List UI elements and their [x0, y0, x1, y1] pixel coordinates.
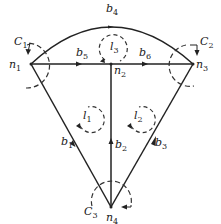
label-b4: b4: [106, 2, 118, 17]
branch-b2: [109, 64, 114, 207]
cutset-c3-arrow: [121, 205, 131, 210]
label-n3: n3: [196, 58, 208, 73]
label-b6: b6: [139, 46, 151, 61]
branch-b1: [31, 64, 111, 207]
label-n1: n1: [9, 58, 21, 73]
label-l2: l2: [134, 109, 143, 124]
label-n2: n2: [114, 64, 126, 79]
graph-diagram: b4 b5 b6 b1 b2 b3 n1 n2 n3 n4 C1 C2 C3 l…: [0, 0, 221, 224]
cutset-c2: [169, 45, 194, 86]
label-c2: C2: [200, 35, 214, 50]
loop-l1-arrow: [76, 123, 81, 129]
node-n4: [110, 206, 113, 209]
label-b3: b3: [155, 136, 167, 151]
branch-b5: [31, 62, 111, 67]
node-n3: [192, 63, 195, 66]
node-n2: [110, 63, 113, 66]
loop-l2-arrow: [127, 123, 132, 129]
cutset-c2-arrow: [190, 45, 200, 56]
label-n4: n4: [106, 211, 118, 224]
label-l1: l1: [83, 109, 92, 124]
label-c1: C1: [14, 35, 28, 50]
node-n1: [30, 63, 33, 66]
branch-b6: [111, 62, 193, 67]
label-c3: C3: [84, 205, 98, 220]
label-l3: l3: [110, 40, 119, 55]
label-b5: b5: [76, 46, 88, 61]
label-b2: b2: [115, 138, 127, 153]
